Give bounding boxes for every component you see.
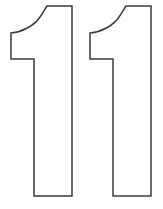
stencil-canvas: [0, 0, 163, 209]
number-stencil-graphic: [0, 0, 163, 209]
